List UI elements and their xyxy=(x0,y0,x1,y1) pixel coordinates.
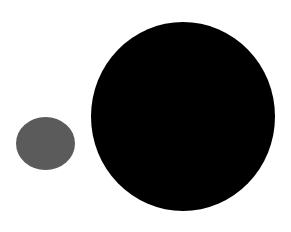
canvas xyxy=(0,0,291,232)
large-black-circle xyxy=(91,22,275,211)
small-gray-circle xyxy=(16,117,75,170)
